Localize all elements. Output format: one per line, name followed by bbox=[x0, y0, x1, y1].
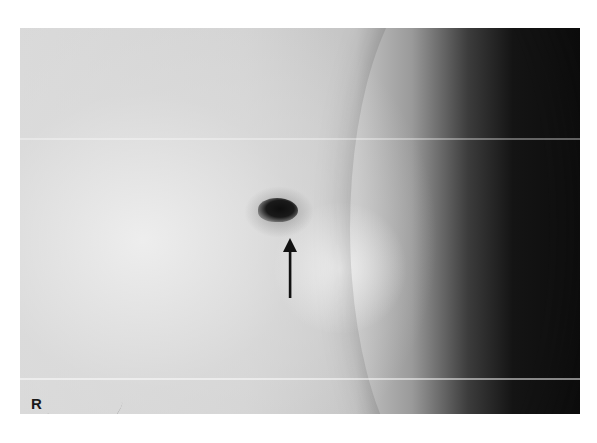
radiograph-image: R bbox=[20, 28, 580, 414]
arrow-up-icon bbox=[282, 238, 298, 298]
scan-artifact-line bbox=[20, 378, 580, 380]
laterality-marker: R bbox=[31, 395, 42, 412]
scan-artifact-line bbox=[20, 138, 580, 140]
lesion bbox=[258, 198, 298, 222]
compression-paddle-edge bbox=[47, 384, 123, 414]
